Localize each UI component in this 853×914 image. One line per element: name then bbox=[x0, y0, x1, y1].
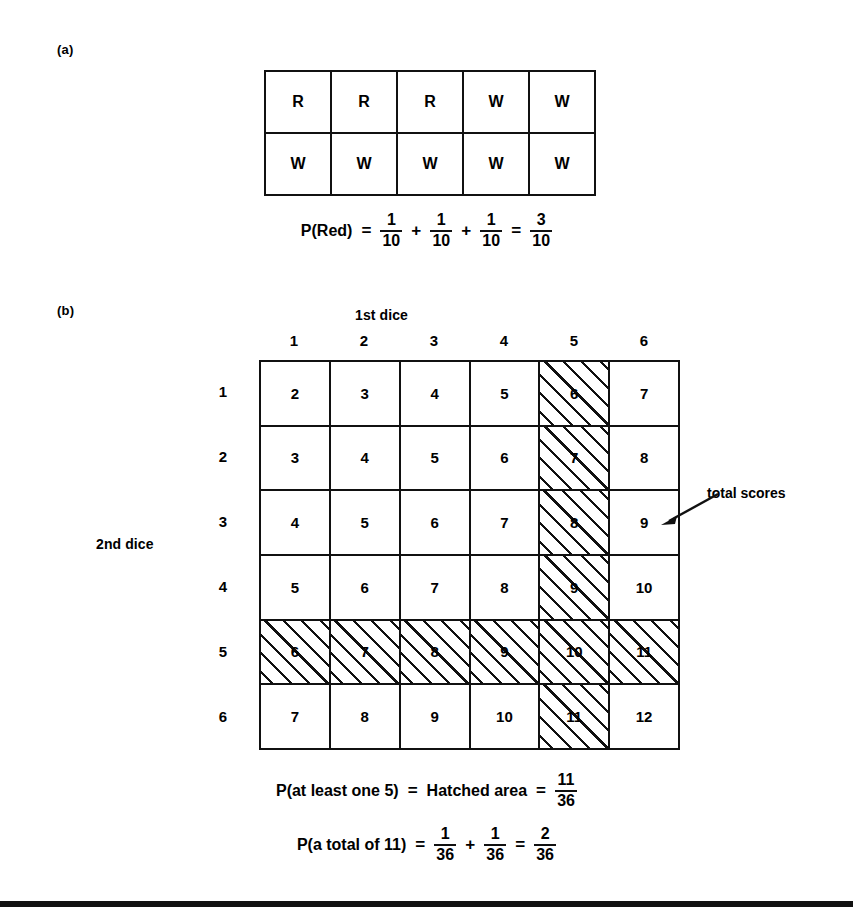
table-cell: W bbox=[398, 134, 464, 196]
dice-cell: 6 bbox=[331, 556, 401, 621]
dice-cell-value: 7 bbox=[570, 449, 578, 466]
dice-cell: 9 bbox=[401, 685, 471, 750]
equals-sign: = bbox=[530, 781, 552, 801]
dice-cell-value: 9 bbox=[640, 514, 648, 531]
plus-sign: + bbox=[459, 835, 481, 855]
fraction-term-2: 1 36 bbox=[484, 826, 506, 864]
second-dice-axis-title: 2nd dice bbox=[96, 536, 154, 552]
dice-cell-value: 11 bbox=[636, 643, 652, 660]
fraction-numerator: 1 bbox=[485, 212, 498, 229]
dice-cell-value: 8 bbox=[500, 579, 508, 596]
dice-cell-value: 6 bbox=[500, 449, 508, 466]
dice-cell-value: 4 bbox=[291, 514, 299, 531]
table-cell: W bbox=[530, 72, 596, 134]
fraction-term-1: 1 36 bbox=[434, 826, 456, 864]
dice-cell: 4 bbox=[401, 362, 471, 427]
dice-cell: 8 bbox=[610, 427, 680, 492]
fraction-denominator: 36 bbox=[555, 793, 577, 810]
row-header-4: 4 bbox=[205, 578, 241, 595]
table-cell: W bbox=[266, 134, 332, 196]
dice-cell-hatched: 9 bbox=[471, 621, 541, 686]
dice-cell: 2 bbox=[261, 362, 331, 427]
dice-cell-value: 6 bbox=[430, 514, 438, 531]
equals-sign: = bbox=[409, 835, 431, 855]
dice-cell-value: 11 bbox=[566, 708, 582, 725]
dice-cell-value: 8 bbox=[361, 708, 369, 725]
dice-cell-value: 5 bbox=[500, 385, 508, 402]
dice-cell-hatched: 6 bbox=[540, 362, 610, 427]
column-header-4: 4 bbox=[469, 332, 539, 349]
dice-cell: 5 bbox=[471, 362, 541, 427]
dice-cell-value: 10 bbox=[636, 579, 653, 596]
fraction-denominator: 10 bbox=[480, 233, 502, 250]
dice-cell-hatched: 10 bbox=[540, 621, 610, 686]
dice-cell-value: 3 bbox=[291, 449, 299, 466]
panel-b-label: (b) bbox=[57, 303, 74, 318]
dice-cell-hatched: 7 bbox=[331, 621, 401, 686]
fraction-result: 11 36 bbox=[555, 772, 577, 810]
table-cell-value: W bbox=[356, 155, 371, 173]
equals-sign: = bbox=[509, 835, 531, 855]
fraction-denominator: 10 bbox=[430, 233, 452, 250]
column-header-5: 5 bbox=[539, 332, 609, 349]
dice-cell-value: 7 bbox=[361, 643, 369, 660]
dice-cell-value: 6 bbox=[361, 579, 369, 596]
dice-cell-value: 6 bbox=[291, 643, 299, 660]
dice-cell-value: 7 bbox=[640, 385, 648, 402]
equation-total-of-11: P(a total of 11) = 1 36 + 1 36 = 2 36 bbox=[0, 826, 853, 864]
dice-cell-value: 9 bbox=[430, 708, 438, 725]
probability-table-a: R R R W W W W W W W bbox=[264, 70, 596, 196]
dice-cell-hatched: 11 bbox=[540, 685, 610, 750]
fraction-result: 3 10 bbox=[530, 212, 552, 250]
fraction-denominator: 10 bbox=[380, 233, 402, 250]
column-header-1: 1 bbox=[259, 332, 329, 349]
dice-cell-hatched: 8 bbox=[540, 491, 610, 556]
dice-cell-value: 4 bbox=[430, 385, 438, 402]
fraction-numerator: 11 bbox=[556, 772, 577, 789]
column-header-2: 2 bbox=[329, 332, 399, 349]
table-cell-value: W bbox=[488, 93, 503, 111]
fraction-result: 2 36 bbox=[534, 826, 556, 864]
dice-cell: 4 bbox=[261, 491, 331, 556]
fraction-numerator: 1 bbox=[489, 826, 502, 843]
dice-cell: 12 bbox=[610, 685, 680, 750]
fraction-numerator: 1 bbox=[385, 212, 398, 229]
dice-cell: 5 bbox=[401, 427, 471, 492]
dice-cell-value: 4 bbox=[361, 449, 369, 466]
dice-cell-value: 10 bbox=[496, 708, 513, 725]
dice-cell-value: 5 bbox=[430, 449, 438, 466]
dice-cell: 10 bbox=[471, 685, 541, 750]
dice-cell-value: 8 bbox=[640, 449, 648, 466]
table-cell: W bbox=[332, 134, 398, 196]
dice-cell-hatched: 6 bbox=[261, 621, 331, 686]
table-cell: R bbox=[266, 72, 332, 134]
dice-cell-value: 7 bbox=[291, 708, 299, 725]
table-cell-value: W bbox=[554, 93, 569, 111]
equation-probability-red: P(Red) = 1 10 + 1 10 + 1 10 = 3 10 bbox=[0, 212, 853, 250]
dice-cell: 6 bbox=[471, 427, 541, 492]
table-cell-value: W bbox=[290, 155, 305, 173]
fraction-denominator: 36 bbox=[534, 847, 556, 864]
dice-cell-value: 7 bbox=[430, 579, 438, 596]
first-dice-axis-title: 1st dice bbox=[355, 307, 408, 323]
table-cell: W bbox=[464, 72, 530, 134]
dice-cell-value: 2 bbox=[291, 385, 299, 402]
table-cell: W bbox=[530, 134, 596, 196]
panel-a-label: (a) bbox=[57, 42, 74, 57]
dice-cell: 3 bbox=[331, 362, 401, 427]
dice-cell-hatched: 11 bbox=[610, 621, 680, 686]
arrow-left-icon bbox=[655, 492, 720, 532]
dice-cell-value: 7 bbox=[500, 514, 508, 531]
table-cell-value: R bbox=[292, 93, 304, 111]
dice-cell-value: 6 bbox=[570, 385, 578, 402]
equation-at-least-one-5: P(at least one 5) = Hatched area = 11 36 bbox=[0, 772, 853, 810]
equation-lhs: P(Red) bbox=[298, 222, 356, 240]
row-header-1: 1 bbox=[205, 383, 241, 400]
dice-cell-value: 8 bbox=[570, 514, 578, 531]
row-header-3: 3 bbox=[205, 513, 241, 530]
column-header-6: 6 bbox=[609, 332, 679, 349]
table-cell-value: W bbox=[488, 155, 503, 173]
dice-cell-value: 5 bbox=[291, 579, 299, 596]
dice-cell: 7 bbox=[471, 491, 541, 556]
dice-cell: 7 bbox=[610, 362, 680, 427]
